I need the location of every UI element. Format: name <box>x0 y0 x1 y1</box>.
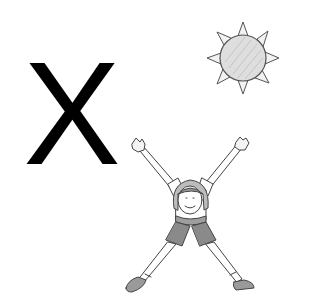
letter-x: X <box>22 44 122 184</box>
star-jump-girl-illustration <box>118 136 263 296</box>
left-arm <box>138 146 176 188</box>
right-leg <box>206 242 242 282</box>
left-shoe <box>126 277 146 292</box>
sun-icon <box>205 20 281 96</box>
right-arm <box>205 146 242 188</box>
left-leg <box>139 242 176 282</box>
sun-disc <box>220 35 266 81</box>
left-hand <box>132 138 145 152</box>
right-hand <box>235 137 249 150</box>
right-shoe <box>233 280 254 290</box>
